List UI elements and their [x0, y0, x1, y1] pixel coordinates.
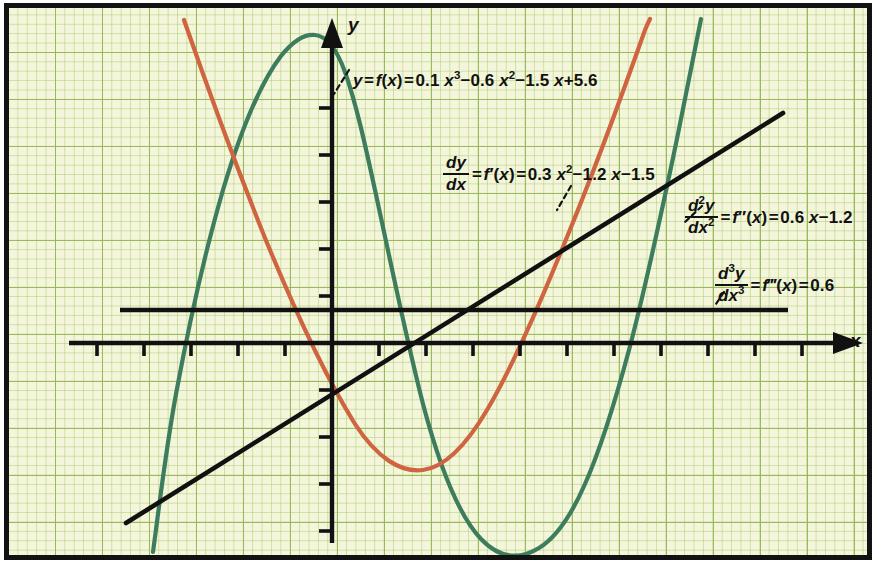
y-axis-label: y [348, 14, 359, 36]
figure-frame: y x y = f(x) = 0.1 x3−0.6 x2−1.5 x+5.6 y… [4, 3, 872, 560]
first-derivative-label: dy dx = f′(x) = 0.3 x2−1.2 x−1.5 dy/dx=f… [443, 155, 655, 195]
d3y-dx3-fraction: d3y dx3 [715, 265, 748, 305]
function-label: y = f(x) = 0.1 x3−0.6 x2−1.5 x+5.6 y=f(x… [353, 72, 598, 90]
y-axis-arrowhead [321, 18, 343, 48]
figure-container: y x y = f(x) = 0.1 x3−0.6 x2−1.5 x+5.6 y… [0, 0, 877, 564]
third-derivative-label: d3y dx3 = f‴(x) = 0.6 d³y/dx³=f‴(x)=0.6 [715, 266, 834, 306]
x-axis-label: x [850, 330, 861, 352]
second-derivative-label: d2y dx2 = f″(x) = 0.6 x−1.2 d²y/dx²=f″(x… [685, 198, 853, 238]
d2y-dx2-fraction: d2y dx2 [685, 197, 718, 237]
dy-dx-fraction: dy dx [443, 154, 469, 194]
